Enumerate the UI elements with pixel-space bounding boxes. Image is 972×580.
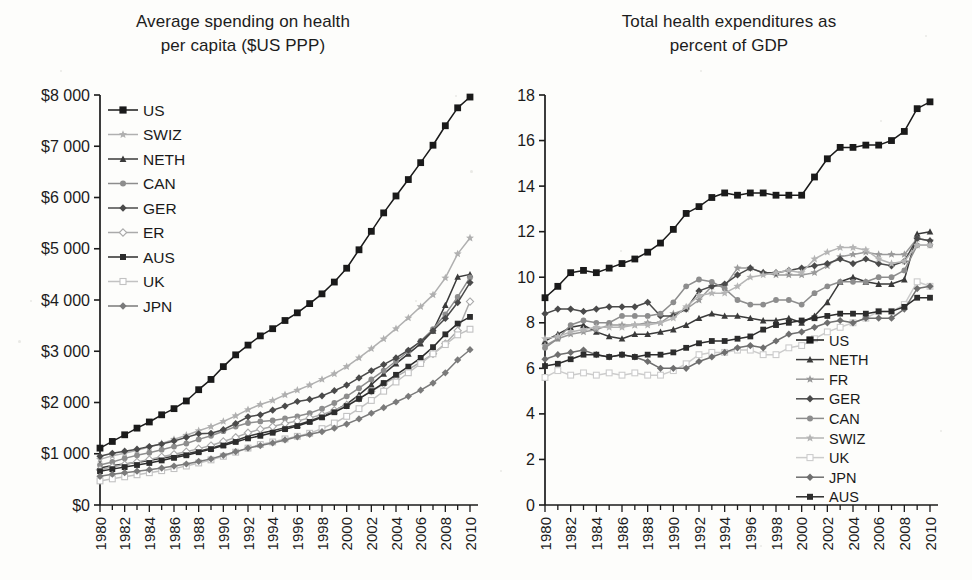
chart-legend: USSWIZNETHCANGERERAUSUKJPN: [108, 102, 185, 315]
x-tick-label: 1990: [215, 517, 232, 550]
legend-label: NETH: [829, 352, 868, 368]
two-panel-line-chart-figure: Average spending on health per capita ($…: [0, 0, 972, 580]
legend-label: UK: [829, 450, 849, 466]
x-tick-label: 1980: [92, 517, 109, 550]
scan-speck: [455, 95, 457, 97]
x-tick-label: 2002: [363, 517, 380, 550]
x-tick-label: 1988: [639, 517, 656, 550]
legend-item-uk[interactable]: UK: [796, 450, 849, 466]
scan-speck: [470, 170, 473, 173]
y-tick-label: 18: [517, 87, 535, 104]
x-tick-label: 2004: [388, 517, 405, 550]
legend-label: CAN: [829, 411, 860, 427]
legend-label: FR: [829, 372, 848, 388]
legend-label: CAN: [143, 175, 176, 192]
panel-health-pct-gdp: Total health expenditures as percent of …: [486, 0, 972, 580]
legend-item-aus[interactable]: AUS: [108, 249, 175, 266]
legend-item-ger[interactable]: GER: [796, 391, 860, 407]
x-tick-label: 1992: [240, 517, 257, 550]
legend-label: GER: [829, 391, 860, 407]
legend-item-aus[interactable]: AUS: [796, 489, 859, 505]
legend-item-can[interactable]: CAN: [108, 175, 176, 192]
y-tick-label: 0: [526, 497, 535, 514]
x-tick-label: 1982: [116, 517, 133, 550]
series-uk: [542, 279, 933, 380]
y-tick-label: 8: [526, 314, 535, 331]
scan-speck: [18, 340, 21, 343]
scan-speck: [620, 250, 622, 252]
x-tick-label: 2008: [437, 517, 454, 550]
legend-item-er[interactable]: ER: [108, 224, 165, 241]
legend-label: NETH: [143, 151, 185, 168]
y-tick-label: $8 000: [41, 87, 90, 104]
legend-item-ger[interactable]: GER: [108, 200, 177, 217]
y-tick-label: $5 000: [41, 240, 90, 257]
x-tick-label: 2008: [896, 517, 913, 550]
y-tick-label: 2: [526, 451, 535, 468]
legend-item-swiz[interactable]: SWIZ: [796, 431, 865, 447]
legend-item-uk[interactable]: UK: [108, 273, 165, 290]
legend-item-us[interactable]: US: [108, 102, 165, 119]
legend-item-can[interactable]: CAN: [796, 411, 860, 427]
series-swiz: [541, 241, 934, 342]
x-tick-label: 1996: [742, 517, 759, 550]
x-tick-label: 1984: [141, 517, 158, 550]
panel-spending-per-capita: Average spending on health per capita ($…: [0, 0, 486, 580]
x-tick-label: 1992: [691, 517, 708, 550]
x-tick-label: 1998: [314, 517, 331, 550]
x-tick-label: 2004: [845, 517, 862, 550]
y-tick-label: $0: [72, 497, 90, 514]
scan-speck: [415, 300, 417, 302]
left-chart-plot: $0$1 000$2 000$3 000$4 000$5 000$6 000$7…: [0, 0, 486, 580]
x-tick-label: 1986: [614, 517, 631, 550]
series-fr: [541, 234, 934, 349]
x-tick-label: 1994: [264, 517, 281, 550]
legend-label: GER: [143, 200, 177, 217]
x-tick-label: 1998: [768, 517, 785, 550]
legend-label: SWIZ: [829, 431, 865, 447]
y-tick-label: 16: [517, 132, 535, 149]
x-tick-label: 1980: [537, 517, 554, 550]
scan-speck: [925, 35, 927, 37]
scan-speck: [200, 540, 202, 542]
scan-speck: [940, 430, 942, 432]
legend-label: AUS: [829, 489, 859, 505]
x-tick-label: 1984: [588, 517, 605, 550]
legend-item-fr[interactable]: FR: [796, 372, 848, 388]
x-tick-label: 2006: [412, 517, 429, 550]
legend-item-neth[interactable]: NETH: [108, 151, 185, 168]
scan-speck: [300, 40, 302, 42]
legend-item-neth[interactable]: NETH: [796, 352, 868, 368]
legend-label: ER: [143, 224, 165, 241]
scan-speck: [30, 300, 32, 302]
legend-label: JPN: [829, 470, 856, 486]
legend-label: SWIZ: [143, 126, 182, 143]
x-tick-label: 2000: [793, 517, 810, 550]
y-tick-label: 10: [517, 269, 535, 286]
legend-item-swiz[interactable]: SWIZ: [108, 126, 182, 143]
legend-label: AUS: [143, 249, 175, 266]
legend-item-jpn[interactable]: JPN: [796, 470, 856, 486]
legend-label: US: [143, 102, 165, 119]
legend-label: US: [829, 333, 849, 349]
y-tick-label: 4: [526, 405, 535, 422]
x-tick-label: 2006: [870, 517, 887, 550]
x-tick-label: 1990: [665, 517, 682, 550]
chart-legend: USNETHFRGERCANSWIZUKJPNAUS: [796, 333, 868, 506]
y-tick-label: $2 000: [41, 394, 90, 411]
scan-speck: [700, 70, 702, 72]
x-tick-label: 1996: [289, 517, 306, 550]
x-tick-label: 2010: [922, 517, 939, 550]
y-tick-label: $1 000: [41, 445, 90, 462]
legend-item-jpn[interactable]: JPN: [108, 298, 172, 315]
y-tick-label: 14: [517, 178, 535, 195]
series-us: [542, 98, 934, 301]
scan-speck: [60, 70, 62, 72]
x-tick-label: 1986: [166, 517, 183, 550]
legend-label: UK: [143, 273, 165, 290]
series-can: [542, 242, 933, 350]
right-chart-plot: 0246810121416181980198219841986198819901…: [486, 0, 972, 580]
y-tick-label: $3 000: [41, 343, 90, 360]
x-tick-label: 2002: [819, 517, 836, 550]
scan-speck: [760, 545, 762, 547]
